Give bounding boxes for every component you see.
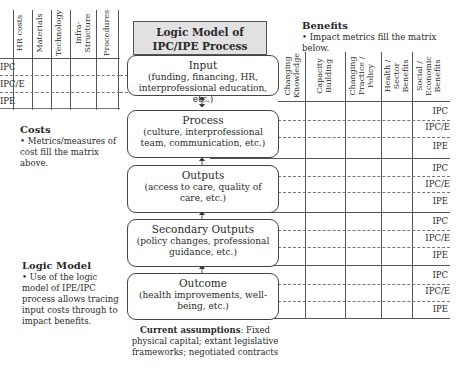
stage-outcome-title: Outcome bbox=[128, 277, 278, 290]
stage-outputs: Outputs (access to care, quality of care… bbox=[127, 165, 279, 213]
costs-bullet: • Metrics/measures of cost fill the matr… bbox=[20, 136, 116, 168]
cost-col-materials: Materials bbox=[35, 10, 44, 56]
stage-outputs-detail: (access to care, quality of care, etc.) bbox=[128, 182, 278, 204]
logic-model-bullet: • Use of the logic model of IPE/IPC proc… bbox=[22, 272, 119, 326]
benefit-col-changing-practice: Changing Practice / Policy bbox=[348, 54, 375, 98]
benefit-row-ipe: IPE bbox=[408, 250, 448, 260]
stage-process-title: Process bbox=[128, 114, 278, 127]
benefit-col-changing-knowledge: Changing Knowledge bbox=[283, 54, 301, 98]
stage-outcome: Outcome (health improvements, well-being… bbox=[127, 273, 279, 320]
benefit-col-social-economic: Social / Economic Benefits bbox=[415, 54, 442, 98]
cost-col-procedures: Procedures bbox=[102, 10, 111, 56]
cost-row-ipce: IPC/E bbox=[0, 79, 25, 89]
benefits-bullet: • Impact metrics fill the matrix below. bbox=[302, 32, 436, 53]
stage-secondary-outputs: Secondary Outputs (policy changes, profe… bbox=[127, 219, 279, 267]
cost-col-hr-costs: HR costs bbox=[15, 10, 24, 56]
benefit-row-ipe: IPE bbox=[408, 196, 448, 206]
benefit-col-capacity-building: Capacity Building bbox=[315, 54, 333, 98]
stage-process-detail: (culture, interprofessional team, commun… bbox=[128, 127, 278, 149]
logic-model-heading: Logic Model bbox=[22, 260, 91, 271]
assumptions-label: Current assumptions bbox=[140, 325, 240, 335]
benefit-row-ipc: IPC bbox=[408, 216, 448, 226]
stage-outputs-title: Outputs bbox=[128, 169, 278, 182]
stage-input-title: Input bbox=[128, 59, 278, 72]
benefits-note: Benefits • Impact metrics fill the matri… bbox=[302, 20, 466, 54]
benefit-row-ipe: IPE bbox=[408, 304, 448, 314]
benefit-row-ipc: IPC bbox=[408, 270, 448, 280]
benefit-row-ipe: IPE bbox=[408, 141, 448, 151]
benefit-row-ipce: IPC/E bbox=[410, 179, 450, 189]
current-assumptions: Current assumptions: Fixed physical capi… bbox=[130, 325, 280, 358]
cost-row-ipc: IPC bbox=[0, 62, 16, 72]
double-arrow-icon bbox=[198, 97, 206, 107]
logic-model-note: Logic Model • Use of the logic model of … bbox=[22, 260, 122, 327]
benefit-row-ipc: IPC bbox=[408, 106, 448, 116]
diagram-title: Logic Model of IPC/IPE Process bbox=[133, 21, 267, 55]
stage-secondary-outputs-title: Secondary Outputs bbox=[128, 223, 278, 236]
cost-row-ipe: IPE bbox=[0, 96, 15, 106]
costs-note: Costs • Metrics/measures of cost fill th… bbox=[20, 124, 120, 169]
stage-outcome-detail: (health improvements, well-being, etc.) bbox=[128, 290, 278, 312]
stage-input: Input (funding, financing, HR, interprof… bbox=[127, 55, 279, 96]
stage-secondary-outputs-detail: (policy changes, professional guidance, … bbox=[128, 236, 278, 258]
benefit-row-ipce: IPC/E bbox=[410, 233, 450, 243]
benefits-heading: Benefits bbox=[302, 20, 348, 31]
costs-heading: Costs bbox=[20, 124, 51, 135]
cost-col-technology: Technology bbox=[54, 10, 63, 56]
benefit-col-health-sector: Health / Sector Benefits bbox=[383, 54, 410, 98]
benefit-row-ipce: IPC/E bbox=[410, 286, 450, 296]
benefit-row-ipc: IPC bbox=[408, 163, 448, 173]
cost-col-infrastructure: Infra- Structure bbox=[74, 10, 92, 56]
benefit-row-ipce: IPC/E bbox=[410, 122, 450, 132]
stage-process: Process (culture, interprofessional team… bbox=[127, 110, 279, 158]
